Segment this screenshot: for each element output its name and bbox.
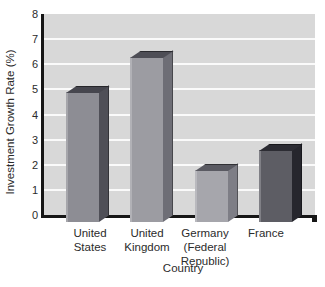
x-label-line: United (102, 226, 192, 240)
gridline (44, 139, 315, 141)
x-label-line: Germany (160, 226, 250, 240)
x-label-line: (Federal (160, 240, 250, 254)
gridline (44, 164, 315, 166)
y-axis-title: Investment Growth Rate (%) (4, 49, 16, 194)
x-label-france: France (221, 226, 311, 240)
bar-chart-figure: Investment Growth Rate (%) 012345678 Uni… (0, 0, 325, 287)
x-axis-end-cap (312, 215, 317, 222)
x-label-line: Kingdom (102, 240, 192, 254)
x-label-line: United (45, 226, 135, 240)
gridline (44, 88, 315, 90)
y-tick-label: 7 (2, 32, 38, 46)
x-axis-line (41, 215, 317, 218)
x-label-united-kingdom: UnitedKingdom (102, 226, 192, 254)
x-axis-title: Country (143, 262, 223, 274)
gridline (44, 38, 315, 40)
x-label-line: States (45, 240, 135, 254)
gridline (44, 63, 315, 65)
x-label-line: France (221, 226, 311, 240)
x-label-united-states: UnitedStates (45, 226, 135, 254)
plot-area (44, 14, 315, 215)
gridline (44, 114, 315, 116)
y-tick-label: 0 (2, 208, 38, 222)
y-tick-label: 8 (2, 7, 38, 21)
y-axis-line (41, 14, 44, 218)
gridline (44, 189, 315, 191)
